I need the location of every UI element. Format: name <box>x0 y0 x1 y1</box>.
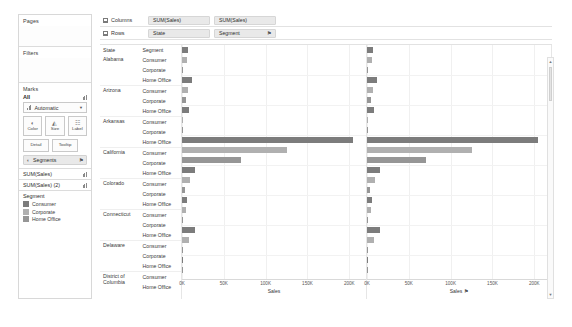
tooltip-button[interactable]: Tooltip <box>52 139 78 152</box>
bar-mark[interactable] <box>367 257 368 263</box>
sort-icon[interactable]: ⚑ <box>464 288 468 294</box>
bar-mark[interactable] <box>367 67 368 73</box>
bar-mark[interactable] <box>182 157 241 163</box>
segment-header-label[interactable]: Corporate <box>141 96 181 106</box>
label-button[interactable]: ☷ Label <box>68 116 87 136</box>
rows-shelf[interactable]: Rows State Segment ⚑ <box>100 27 552 40</box>
legend-item-corporate[interactable]: Corporate <box>23 209 87 215</box>
bar-mark[interactable] <box>367 147 472 153</box>
segment-header-label[interactable]: Home Office <box>141 75 181 85</box>
marks-all-row[interactable]: All <box>19 94 91 102</box>
segment-header-label[interactable]: Home Office <box>141 137 181 147</box>
bar-mark[interactable] <box>182 67 183 73</box>
bar-mark[interactable] <box>367 207 371 213</box>
sort-icon[interactable]: ⚑ <box>79 157 83 163</box>
bar-mark[interactable] <box>367 117 368 123</box>
size-button[interactable]: ◭ Size <box>45 116 64 136</box>
plot-area-left[interactable] <box>182 45 366 280</box>
bar-mark[interactable] <box>367 187 370 193</box>
segment-header-label[interactable]: Consumer <box>141 86 181 96</box>
bar-mark[interactable] <box>367 177 375 183</box>
bar-mark[interactable] <box>182 237 189 243</box>
segment-header-label[interactable]: Home Office <box>141 230 181 240</box>
pages-drop-zone[interactable] <box>19 26 91 46</box>
bar-mark[interactable] <box>367 47 373 53</box>
state-header-label[interactable]: Colorado <box>100 179 141 209</box>
bar-mark[interactable] <box>182 227 195 233</box>
columns-pill-sum-sales-2[interactable]: SUM(Sales) <box>214 16 276 25</box>
segment-header-label[interactable]: Corporate <box>141 251 181 261</box>
scroll-down-icon[interactable]: ▼ <box>548 291 553 298</box>
measure-card-1[interactable]: SUM(Sales) <box>19 169 91 180</box>
bar-mark[interactable] <box>182 137 353 143</box>
bar-mark[interactable] <box>182 217 183 223</box>
bar-mark[interactable] <box>182 247 183 253</box>
legend-item-consumer[interactable]: Consumer <box>23 201 87 207</box>
bar-mark[interactable] <box>182 207 186 213</box>
state-header-label[interactable]: Arizona <box>100 86 141 116</box>
bar-mark[interactable] <box>367 127 368 133</box>
bar-mark[interactable] <box>182 257 183 263</box>
segment-header-label[interactable]: Consumer <box>141 117 181 127</box>
segment-header-label[interactable]: Home Office <box>141 199 181 209</box>
bar-mark[interactable] <box>367 97 371 103</box>
legend-item-home-office[interactable]: Home Office <box>23 216 87 222</box>
state-header-label[interactable]: California <box>100 148 141 178</box>
segment-header-label[interactable]: Corporate <box>141 158 181 168</box>
bar-mark[interactable] <box>367 237 374 243</box>
bar-mark[interactable] <box>367 247 368 253</box>
columns-shelf[interactable]: Columns SUM(Sales) SUM(Sales) <box>100 14 552 27</box>
filters-drop-zone[interactable] <box>19 58 91 82</box>
segment-header-label[interactable]: Corporate <box>141 65 181 75</box>
bar-mark[interactable] <box>367 267 368 273</box>
plot-area-right[interactable] <box>367 45 551 280</box>
bar-mark[interactable] <box>367 57 372 63</box>
bar-mark[interactable] <box>367 167 380 173</box>
rows-pill-state[interactable]: State <box>148 29 210 38</box>
bar-mark[interactable] <box>182 97 186 103</box>
segment-header-label[interactable]: Home Office <box>141 168 181 178</box>
bar-mark[interactable] <box>182 147 287 153</box>
bar-mark[interactable] <box>182 177 190 183</box>
bar-mark[interactable] <box>367 157 426 163</box>
bar-mark[interactable] <box>182 267 183 273</box>
segment-header-label[interactable]: Consumer <box>141 179 181 189</box>
measure-card-2[interactable]: SUM(Sales) (2) <box>19 180 91 191</box>
segment-header-label[interactable]: Home Office <box>141 261 181 271</box>
segment-header-label[interactable]: Consumer <box>141 148 181 158</box>
bar-mark[interactable] <box>182 107 189 113</box>
segment-header-label[interactable]: Corporate <box>141 127 181 137</box>
segment-header-label[interactable]: Home Office <box>141 106 181 116</box>
segment-header-label[interactable]: Corporate <box>141 189 181 199</box>
segment-header-label[interactable]: Corporate <box>141 220 181 230</box>
detail-button[interactable]: Detail <box>23 139 49 152</box>
scroll-up-icon[interactable]: ▲ <box>548 58 553 65</box>
state-header-label[interactable]: District of Columbia <box>100 272 141 292</box>
bar-mark[interactable] <box>182 87 188 93</box>
state-header-label[interactable]: Delaware <box>100 241 141 271</box>
state-header-label[interactable]: Connecticut <box>100 210 141 240</box>
rows-pill-segment[interactable]: Segment ⚑ <box>214 29 276 38</box>
columns-pill-sum-sales-1[interactable]: SUM(Sales) <box>148 16 210 25</box>
bar-mark[interactable] <box>367 77 377 83</box>
color-button[interactable]: ◐ Color <box>23 116 42 136</box>
segment-header-label[interactable]: Consumer <box>141 210 181 220</box>
segment-header-label[interactable]: Consumer <box>141 55 181 65</box>
bar-mark[interactable] <box>182 57 187 63</box>
bar-mark[interactable] <box>367 87 373 93</box>
segment-header-label[interactable]: Consumer <box>141 272 181 282</box>
scrollbar-thumb[interactable] <box>549 67 552 101</box>
bar-mark[interactable] <box>367 217 368 223</box>
bar-mark[interactable] <box>367 137 538 143</box>
bar-mark[interactable] <box>182 127 183 133</box>
sort-icon[interactable]: ⚑ <box>267 30 271 36</box>
bar-mark[interactable] <box>182 197 187 203</box>
state-header-label[interactable]: Alabama <box>100 55 141 85</box>
segment-header-label[interactable]: Home Office <box>141 282 181 292</box>
bar-mark[interactable] <box>182 187 185 193</box>
bar-mark[interactable] <box>367 227 380 233</box>
bar-mark[interactable] <box>182 167 195 173</box>
bar-mark[interactable] <box>367 107 374 113</box>
mark-type-dropdown[interactable]: Automatic ▼ <box>23 102 87 113</box>
bar-mark[interactable] <box>182 47 188 53</box>
